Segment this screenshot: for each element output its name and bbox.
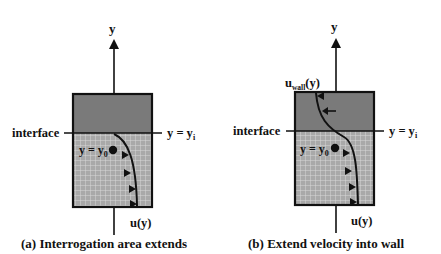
interface-eq-label: y = yi [167, 126, 196, 142]
velocity-label: u(y) [130, 216, 152, 230]
diagram-canvas: y y = y0 interface y = yi u(y) (a) Inter… [0, 0, 441, 254]
point-y0-label: y = y0 [79, 143, 108, 159]
wall-velocity-label: uwall(y) [285, 76, 320, 92]
y-axis-arrow-icon [109, 39, 119, 49]
panel-b: y y = y0 uwall(y) interface y = yi u(y) … [233, 19, 418, 251]
y-axis-arrow-icon [331, 38, 341, 48]
point-y0-marker [109, 146, 117, 154]
velocity-label: u(y) [351, 214, 373, 228]
interface-label: interface [233, 124, 281, 138]
wall-region [73, 94, 152, 133]
point-y0-marker [331, 144, 339, 152]
point-y0-label: y = y0 [300, 142, 329, 158]
caption-b: (b) Extend velocity into wall [248, 236, 404, 251]
y-axis-label: y [109, 21, 116, 36]
caption-a: (a) Interrogation area extends [21, 236, 187, 251]
panel-a: y y = y0 interface y = yi u(y) (a) Inter… [12, 21, 196, 251]
interface-label: interface [12, 126, 60, 140]
y-axis-label: y [331, 19, 338, 34]
interface-eq-label: y = yi [389, 124, 418, 140]
